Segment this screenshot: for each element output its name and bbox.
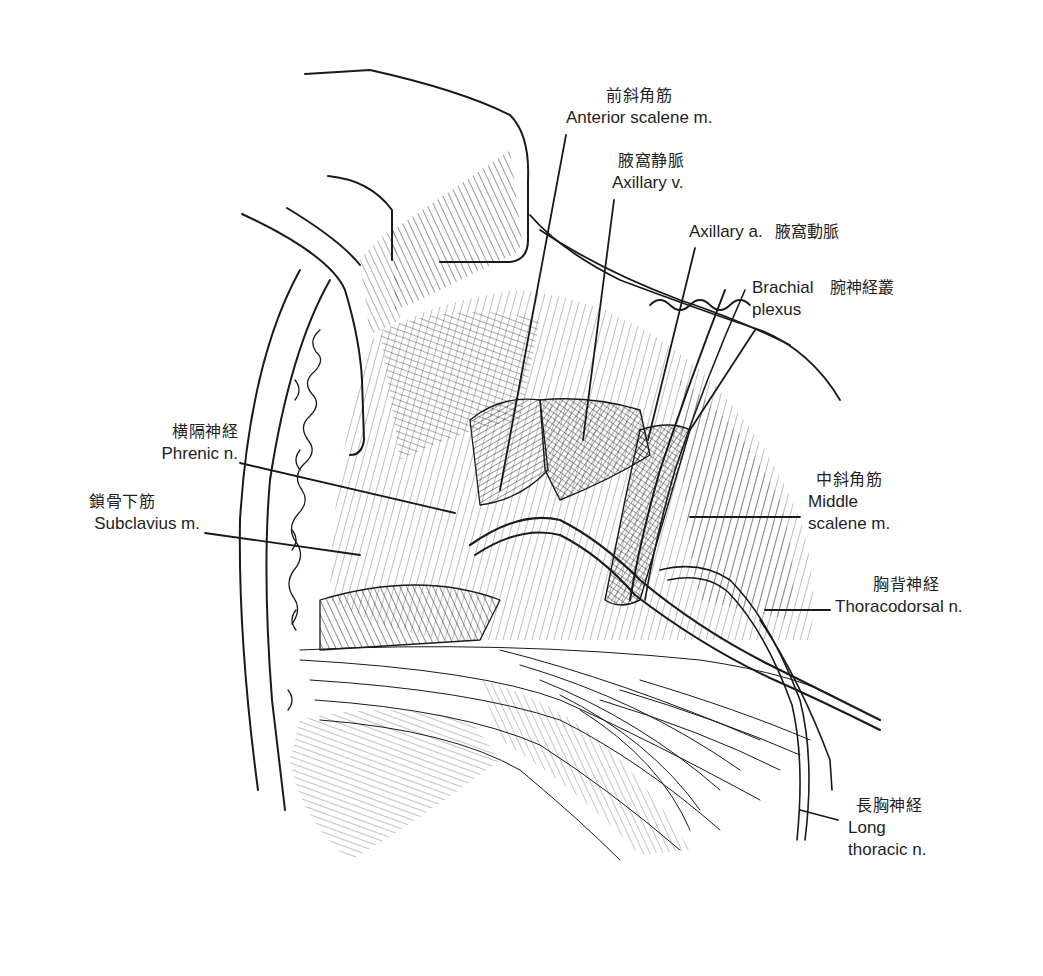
label-long-thoracic-en2: thoracic n. bbox=[848, 839, 926, 861]
label-middle-scalene: 中斜角筋 Middle scalene m. bbox=[808, 469, 890, 535]
label-subclavius-en: Subclavius m. bbox=[55, 513, 200, 535]
label-phrenic: 横隔神経 Phrenic n. bbox=[140, 421, 238, 465]
label-thoracodorsal-jp: 胸背神経 bbox=[835, 574, 963, 596]
fat-tissue-left bbox=[288, 330, 321, 710]
label-anterior-scalene: 前斜角筋 Anterior scalene m. bbox=[566, 85, 712, 129]
subclavius-shape bbox=[320, 585, 500, 650]
label-long-thoracic: 長胸神経 Long thoracic n. bbox=[848, 795, 926, 861]
label-brachial-plexus-jp: 腕神経叢 bbox=[830, 278, 894, 297]
flap-muscle-hatching bbox=[393, 150, 522, 310]
label-phrenic-en: Phrenic n. bbox=[140, 443, 238, 465]
label-brachial-plexus-en2: plexus bbox=[752, 299, 894, 321]
anatomical-figure: 前斜角筋 Anterior scalene m. 腋窩静脈 Axillary v… bbox=[0, 0, 1043, 976]
label-axillary-vein-jp: 腋窩静脈 bbox=[612, 150, 684, 172]
label-axillary-vein: 腋窩静脈 Axillary v. bbox=[612, 150, 684, 194]
label-axillary-artery-jp: 腋窩動脈 bbox=[775, 222, 839, 241]
label-axillary-artery: Axillary a. 腋窩動脈 bbox=[689, 221, 839, 243]
label-subclavius: 鎖骨下筋 Subclavius m. bbox=[55, 491, 200, 535]
label-phrenic-jp: 横隔神経 bbox=[140, 421, 238, 443]
label-subclavius-jp: 鎖骨下筋 bbox=[55, 491, 200, 513]
label-brachial-plexus-en1: Brachial bbox=[752, 278, 813, 297]
label-axillary-vein-en: Axillary v. bbox=[612, 172, 684, 194]
label-axillary-artery-en: Axillary a. bbox=[689, 222, 763, 241]
label-thoracodorsal-en: Thoracodorsal n. bbox=[835, 596, 963, 618]
label-brachial-plexus: Brachial 腕神経叢 plexus bbox=[752, 277, 894, 321]
label-anterior-scalene-en: Anterior scalene m. bbox=[566, 107, 712, 129]
label-thoracodorsal: 胸背神経 Thoracodorsal n. bbox=[835, 574, 963, 618]
label-middle-scalene-en2: scalene m. bbox=[808, 513, 890, 535]
label-middle-scalene-jp: 中斜角筋 bbox=[808, 469, 890, 491]
label-long-thoracic-jp: 長胸神経 bbox=[848, 795, 926, 817]
label-middle-scalene-en1: Middle bbox=[808, 491, 890, 513]
label-anterior-scalene-jp: 前斜角筋 bbox=[566, 85, 712, 107]
leader-long-thoracic bbox=[800, 810, 838, 820]
label-long-thoracic-en1: Long bbox=[848, 817, 926, 839]
